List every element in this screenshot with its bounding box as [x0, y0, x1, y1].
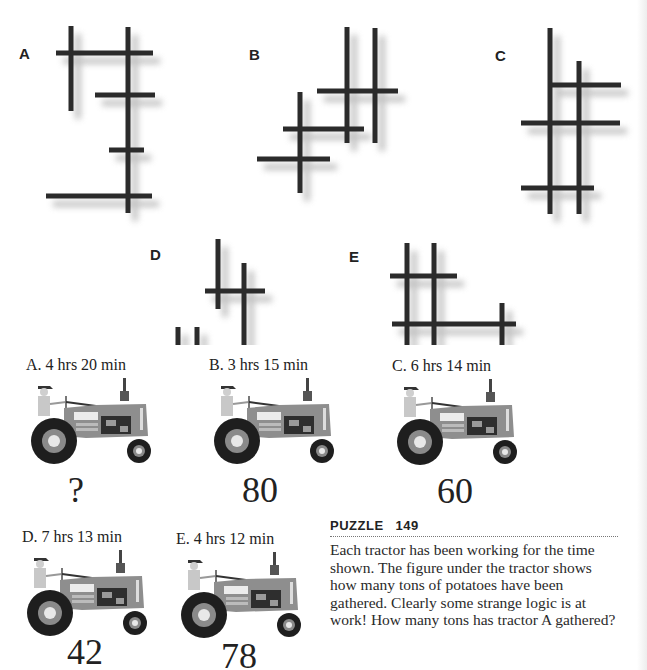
- tractor-icon: [26, 376, 156, 466]
- tractor-d: D. 7 hrs 13 min: [22, 528, 192, 638]
- tractor-icon: [22, 548, 152, 638]
- tractor-a-time: A. 4 hrs 20 min: [26, 356, 196, 374]
- figure-a: [46, 26, 155, 213]
- puzzle-heading: PUZZLE149: [330, 518, 618, 537]
- tractor-e-time: E. 4 hrs 12 min: [176, 530, 346, 548]
- puzzle-number: 149: [396, 518, 419, 533]
- tractor-b: B. 3 hrs 15 min: [209, 356, 379, 466]
- puzzle-heading-label: PUZZLE: [330, 518, 384, 533]
- tractor-icon: [176, 550, 306, 640]
- tractor-b-time: B. 3 hrs 15 min: [209, 356, 379, 374]
- puzzle-description: Each tractor has been working for the ti…: [330, 541, 618, 629]
- tractor-c-tons: 60: [425, 473, 485, 509]
- puzzle-panel: PUZZLE149 Each tractor has been working …: [330, 518, 618, 629]
- tractor-icon: [209, 376, 339, 466]
- tractor-a: A. 4 hrs 20 min: [26, 356, 196, 466]
- figure-label-a: A: [19, 45, 30, 62]
- tractor-a-tons: ?: [56, 472, 96, 508]
- figure-label-c: C: [495, 47, 506, 64]
- tractor-e-tons: 78: [209, 638, 269, 670]
- figure-label-b: B: [249, 46, 260, 63]
- tractor-d-tons: 42: [55, 634, 115, 670]
- figure-c: [521, 28, 621, 214]
- figure-label-e: E: [349, 248, 359, 265]
- figure-label-d: D: [150, 246, 161, 263]
- tractor-icon: [392, 377, 522, 467]
- tractor-d-time: D. 7 hrs 13 min: [22, 528, 192, 546]
- tractor-b-tons: 80: [230, 472, 290, 508]
- line-figures: [0, 0, 647, 345]
- tractor-e: E. 4 hrs 12 min: [176, 530, 346, 640]
- tractor-c-time: C. 6 hrs 14 min: [392, 357, 562, 375]
- tractor-c: C. 6 hrs 14 min: [392, 357, 562, 467]
